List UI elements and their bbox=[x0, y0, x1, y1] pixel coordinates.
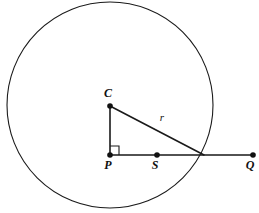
point-label-s: S bbox=[152, 158, 159, 172]
point-dot-q bbox=[250, 152, 256, 158]
point-dot-c bbox=[107, 103, 113, 109]
length-label-r: r bbox=[160, 111, 165, 123]
point-dot-p bbox=[107, 152, 113, 158]
point-label-p: P bbox=[104, 158, 112, 172]
point-label-q: Q bbox=[246, 158, 255, 172]
geometry-diagram: C P S Q r bbox=[0, 0, 259, 213]
geometry-canvas: C P S Q r bbox=[0, 0, 259, 213]
point-label-c: C bbox=[104, 86, 113, 100]
segment-radius-r bbox=[110, 106, 204, 155]
point-dot-s bbox=[154, 152, 160, 158]
